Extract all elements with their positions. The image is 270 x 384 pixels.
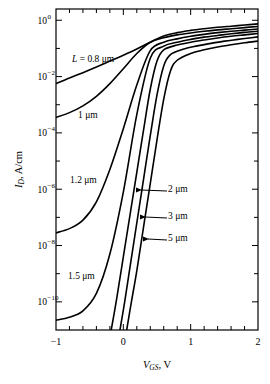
curve-label: 3 μm: [168, 211, 188, 221]
curve-label: 1.2 μm: [70, 175, 97, 185]
svg-text:−10: −10: [48, 294, 59, 302]
svg-text:10: 10: [38, 241, 48, 251]
svg-text:10: 10: [38, 185, 48, 195]
iv-curve-chart: −1012 10010−210−410−610−810−10 L = 0.8 μ…: [0, 0, 270, 384]
figure-root: −1012 10010−210−410−610−810−10 L = 0.8 μ…: [0, 0, 270, 384]
curve-label: L = 0.8 μm: [71, 54, 115, 64]
x-tick-label: 2: [256, 336, 261, 347]
x-tick-label: 1: [188, 336, 193, 347]
svg-text:0: 0: [48, 13, 52, 21]
svg-text:10: 10: [38, 16, 48, 26]
svg-text:10: 10: [38, 297, 48, 307]
svg-text:10: 10: [38, 72, 48, 82]
svg-text:−6: −6: [48, 182, 56, 190]
svg-text:−4: −4: [48, 125, 56, 133]
curve-label: 1.5 μm: [68, 271, 95, 281]
curve-label: 1 μm: [78, 110, 98, 120]
curve-label: 2 μm: [168, 184, 188, 194]
svg-text:−8: −8: [48, 238, 56, 246]
x-tick-label: −1: [51, 336, 62, 347]
svg-text:10: 10: [38, 128, 48, 138]
x-tick-label: 0: [121, 336, 126, 347]
curve-label: 5 μm: [168, 233, 188, 243]
svg-text:−2: −2: [48, 69, 56, 77]
